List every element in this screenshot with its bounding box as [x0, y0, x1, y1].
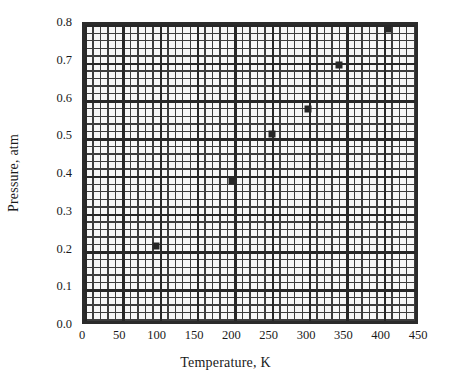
data-point	[152, 242, 159, 249]
data-point	[335, 62, 342, 69]
x-tick-label: 450	[409, 329, 428, 342]
data-point	[305, 105, 312, 112]
data-point	[268, 131, 275, 138]
x-tick-label: 400	[371, 329, 390, 342]
plot-area	[82, 22, 418, 324]
x-tick-label: 100	[147, 329, 166, 342]
y-axis-title: Pressure, atm	[6, 22, 28, 324]
x-tick-label: 200	[222, 329, 241, 342]
major-gridlines	[85, 25, 415, 321]
x-tick-label: 50	[113, 329, 126, 342]
x-axis-title: Temperature, K	[0, 355, 451, 371]
scatter-chart-figure: 0.8 0.7 0.6 0.5 0.4 0.3 0.2 0.1 0.0 0 50…	[0, 0, 451, 385]
x-tick-label: 250	[259, 329, 278, 342]
x-tick-label: 0	[79, 329, 85, 342]
x-axis-tick-labels: 0 50 100 150 200 250 300 350 400 450	[0, 329, 451, 349]
x-tick-label: 350	[334, 329, 353, 342]
x-tick-label: 150	[185, 329, 204, 342]
data-point	[385, 25, 392, 32]
x-tick-label: 300	[297, 329, 316, 342]
data-point	[229, 177, 236, 184]
